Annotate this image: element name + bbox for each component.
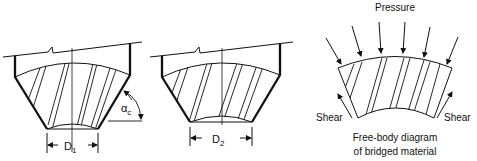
hopper-1: D1 αc [3, 42, 142, 155]
hopper-wall [98, 43, 130, 129]
diagram-canvas: D1 αc D2 Pressure [0, 0, 477, 161]
pressure-label: Pressure [375, 2, 415, 13]
caption-line-2: of bridged material [354, 146, 437, 157]
caption-line-1: Free-body diagram [353, 132, 437, 143]
free-body-diagram: Pressure Shear Shear [316, 2, 471, 157]
arch-bottom [47, 124, 98, 129]
pressure-arrows [326, 22, 458, 64]
arch-bottom [190, 116, 252, 122]
hopper-2: D2 [150, 42, 293, 148]
hatching [345, 58, 440, 118]
arch-top [15, 63, 130, 77]
shear-right-label: Shear [444, 112, 471, 123]
shear-left-label: Shear [316, 112, 343, 123]
hopper-wall [162, 56, 190, 122]
top-surface-line [3, 42, 142, 57]
hatching [170, 60, 264, 125]
dimension-d1-label: D1 [64, 140, 77, 155]
hopper-wall [252, 43, 280, 122]
dimension-d2-label: D2 [212, 133, 225, 148]
top-surface-line [150, 42, 293, 57]
angle-alpha-c-label: αc [121, 102, 131, 117]
arch-top [338, 57, 452, 69]
arch-bottom [358, 108, 434, 118]
